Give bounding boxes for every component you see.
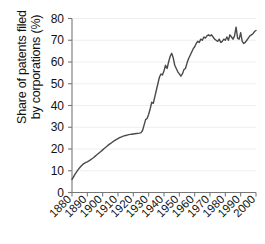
- x-axis-tick-labels: 1880189019001910192019301940195019601970…: [47, 193, 258, 220]
- y-axis-ticks: [68, 19, 72, 193]
- chart-figure: Share of patents filed by corporations (…: [0, 0, 265, 244]
- y-axis-tick-label: 40: [51, 99, 65, 113]
- y-axis-tick-label: 60: [51, 55, 65, 69]
- y-axis-tick-label: 10: [51, 164, 65, 178]
- x-axis-ticks: [72, 193, 256, 197]
- y-axis-tick-label: 50: [51, 77, 65, 91]
- y-axis-tick-label: 30: [51, 120, 65, 134]
- line-chart-plot: 01020304050607080 1880189019001910192019…: [0, 0, 265, 244]
- y-axis-tick-label: 20: [51, 142, 65, 156]
- y-axis-tick-label: 80: [51, 12, 65, 26]
- gridlines: [73, 19, 256, 171]
- y-axis: 01020304050607080: [51, 12, 72, 200]
- y-axis-tick-label: 70: [51, 33, 65, 47]
- y-axis-tick-labels: 01020304050607080: [51, 12, 65, 200]
- x-axis: 1880189019001910192019301940195019601970…: [47, 193, 258, 220]
- data-series-line: [72, 27, 256, 179]
